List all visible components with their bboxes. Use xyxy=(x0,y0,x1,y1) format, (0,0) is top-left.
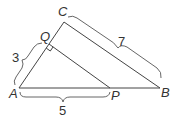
measure-aq: 3 xyxy=(12,50,19,65)
right-angle-marker xyxy=(46,47,53,51)
segment-cb xyxy=(64,22,160,88)
label-p: P xyxy=(111,88,120,103)
label-c: C xyxy=(58,4,68,19)
triangle-diagram: C Q A P B 3 7 5 xyxy=(0,0,179,120)
label-q: Q xyxy=(40,29,50,44)
brace-cb xyxy=(68,16,161,78)
segment-qp xyxy=(49,44,110,88)
measure-cb: 7 xyxy=(118,34,125,49)
measure-ap: 5 xyxy=(59,103,66,118)
brace-ap xyxy=(20,92,110,102)
label-a: A xyxy=(8,86,18,101)
label-b: B xyxy=(161,85,170,100)
